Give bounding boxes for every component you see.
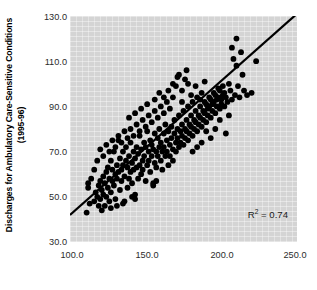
x-axis-tick-labels: 100.0 150.0 200.0 250.0 [0, 0, 317, 290]
scatter-plot-figure: Discharges for Ambulatory Care-Sensitive… [0, 0, 317, 290]
x-tick-label: 250.0 [265, 250, 317, 260]
x-tick-label: 100.0 [42, 250, 102, 260]
x-tick-label: 200.0 [192, 250, 252, 260]
x-tick-label: 150.0 [117, 250, 177, 260]
